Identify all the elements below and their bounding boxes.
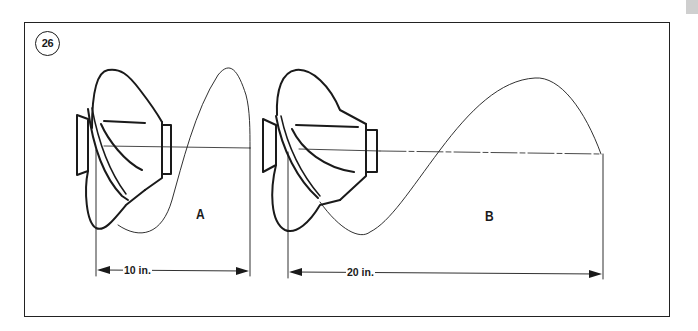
diagram-a xyxy=(77,68,250,276)
pitch-label-a: 10 in. xyxy=(123,264,152,276)
helix-curve-a xyxy=(118,68,250,233)
diagram-b xyxy=(263,70,603,279)
propeller-slot-b xyxy=(296,125,358,127)
propeller-blade-top-a xyxy=(92,70,162,128)
arrowhead-right-a xyxy=(236,267,249,275)
arrowhead-left-b xyxy=(289,268,302,276)
propeller-pitch-diagram xyxy=(0,0,698,331)
propeller-hub-b xyxy=(340,124,366,200)
propeller-flange-a xyxy=(77,115,88,175)
propeller-blade-bottom-b xyxy=(272,165,340,231)
centerline-b xyxy=(299,149,380,151)
propeller-inner-groove-a xyxy=(101,124,142,170)
propeller-hub-a xyxy=(145,122,162,190)
helix-curve-b xyxy=(320,78,601,235)
pitch-label-b: 20 in. xyxy=(346,266,375,278)
propeller-flange-b xyxy=(263,119,276,172)
dimension-line-b xyxy=(292,272,599,274)
arrowhead-left-a xyxy=(97,266,110,274)
propeller-blade-bottom-a xyxy=(86,171,145,229)
dimension-line-a xyxy=(100,270,246,271)
diagram-label-b: B xyxy=(485,207,494,224)
centerline-b-dashed xyxy=(380,151,601,154)
centerline-a xyxy=(104,146,250,148)
arrowhead-right-b xyxy=(589,270,602,278)
diagram-label-a: A xyxy=(196,205,205,222)
propeller-cone-a xyxy=(162,125,171,174)
propeller-slot-a xyxy=(104,121,145,123)
propeller-blade-top-b xyxy=(277,70,366,124)
